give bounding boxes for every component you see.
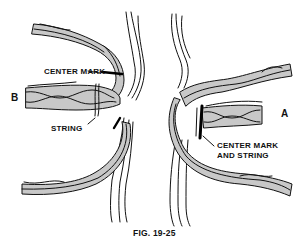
rope-splice-illustration xyxy=(0,0,301,247)
right-center-mark-label-line2: AND STRING xyxy=(217,151,269,160)
right-string xyxy=(196,108,197,136)
left-braided-strand-b xyxy=(26,82,120,110)
left-center-mark-lower xyxy=(114,118,120,128)
right-end-label-a: A xyxy=(281,109,288,118)
right-braided-strand-a xyxy=(202,101,262,128)
figure-caption: FIG. 19-25 xyxy=(133,229,176,238)
right-center-mark xyxy=(200,106,202,138)
right-upper-strand xyxy=(180,64,292,106)
left-string-label: STRING xyxy=(51,124,82,133)
left-unlaid-strands xyxy=(111,12,145,222)
right-center-mark-arrow xyxy=(203,136,214,146)
right-center-mark-label-line1: CENTER MARK xyxy=(217,141,278,150)
left-end-label-b: B xyxy=(11,93,18,102)
left-string-arrow xyxy=(88,118,95,124)
left-center-mark-label: CENTER MARK xyxy=(44,67,105,76)
